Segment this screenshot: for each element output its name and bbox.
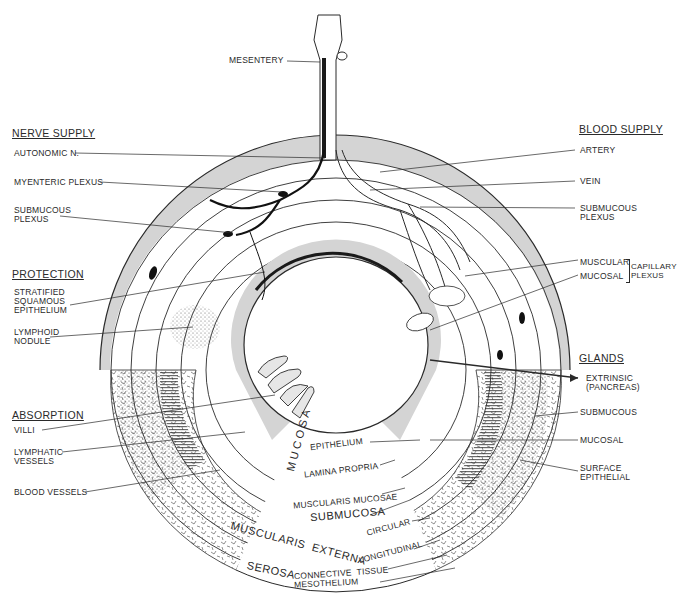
submucous-glands-label: SUBMUCOUS [580, 408, 637, 417]
extrinsic-pancreas-label: EXTRINSIC (PANCREAS) [586, 374, 640, 392]
villi-label: VILLI [14, 426, 35, 435]
vein-label: VEIN [580, 177, 601, 186]
lymphoid-nodule [170, 305, 220, 349]
blood-submucous-plexus-label: SUBMUCOUS PLEXUS [580, 204, 637, 222]
muscular-capillary-label: MUSCULAR [580, 258, 629, 267]
nerve-supply-heading: NERVE SUPPLY [12, 127, 95, 139]
surface-epithelial-glands-label: SURFACE EPITHELIAL [580, 464, 630, 482]
absorption-heading: ABSORPTION [12, 409, 84, 421]
capillary-bracket [626, 259, 630, 283]
mesentery-label: MESENTERY [229, 56, 284, 65]
nerve-submucous-plexus-label: SUBMUCOUS PLEXUS [14, 206, 71, 224]
artery-label: ARTERY [580, 146, 615, 155]
autonomic-nerve-label: AUTONOMIC N. [14, 149, 79, 158]
blood-vessels-label: BLOOD VESSELS [14, 488, 87, 497]
capillary-plexus-label: CAPILLARY PLEXUS [631, 262, 677, 280]
mucosal-glands-label: MUCOSAL [580, 436, 623, 445]
lymphoid-nodule-label: LYMPHOID NODULE [14, 328, 59, 346]
lower-right-sector [406, 370, 561, 570]
glands-heading: GLANDS [579, 352, 624, 364]
myenteric-plexus-label: MYENTERIC PLEXUS [14, 178, 103, 187]
stratified-squamous-epithelium-label: STRATIFIED SQUAMOUS EPITHELIUM [14, 288, 67, 315]
blood-supply-heading: BLOOD SUPPLY [579, 123, 663, 135]
mucosal-capillary-label: MUCOSAL [580, 272, 623, 281]
protection-heading: PROTECTION [12, 268, 84, 280]
lymphatic-vessels-label: LYMPHATIC VESSELS [14, 448, 63, 466]
